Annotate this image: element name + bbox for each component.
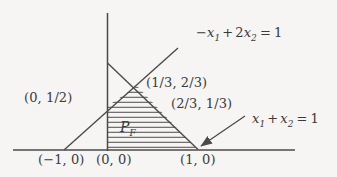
label2-plus-op: +	[265, 111, 280, 126]
region-label-pf: PF	[120, 119, 136, 138]
region-label-subscript: F	[130, 128, 136, 138]
label2-rhs-1: 1	[311, 111, 319, 126]
point-label-origin: (0, 0)	[96, 152, 132, 167]
label-equals: =	[257, 25, 274, 40]
label2-sub-2: 2	[288, 119, 294, 129]
label-constraint-neg-x1-plus-2x2: −x1+2x2=1	[196, 25, 282, 43]
region-label-base: P	[120, 119, 130, 135]
point-label-1-0: (1, 0)	[180, 152, 216, 167]
label-constraint-x1-plus-x2: x1+x2=1	[252, 111, 319, 129]
label-minus-sign: −	[196, 25, 207, 40]
label-coef-2: 2	[235, 25, 243, 40]
point-label-twothirds-third: (2/3, 1/3)	[171, 96, 232, 111]
label2-equals: =	[294, 111, 311, 126]
label-plus-op: +	[220, 25, 235, 40]
point-label-minus1-0: (−1, 0)	[38, 152, 85, 167]
label-var-x2: x	[244, 25, 251, 40]
math-diagram: −x1+2x2=1 x1+x2=1 (0, 1/2) (1/3, 2/3) (2…	[0, 0, 337, 177]
label-rhs-1: 1	[274, 25, 282, 40]
pointer-arrow-to-vertex	[201, 116, 245, 146]
point-label-0-half: (0, 1/2)	[24, 90, 72, 105]
label2-var-x2: x	[280, 111, 287, 126]
point-label-third-twothirds: (1/3, 2/3)	[146, 75, 207, 90]
